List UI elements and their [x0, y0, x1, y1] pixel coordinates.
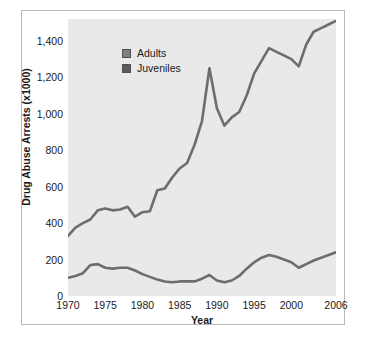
- y-tick-label: 400: [19, 217, 63, 229]
- x-tick-label: 1985: [159, 299, 201, 311]
- series-line-juveniles: [68, 252, 336, 282]
- y-tick-label: 1,000: [19, 108, 63, 120]
- x-tick-label: 2000: [270, 299, 312, 311]
- legend-label: Adults: [137, 47, 166, 59]
- y-tick-label: 800: [19, 144, 63, 156]
- series-line-adults: [68, 21, 336, 236]
- x-tick-label: 1970: [47, 299, 89, 311]
- legend-swatch-icon: [122, 49, 131, 58]
- x-tick-label: 2006: [315, 299, 357, 311]
- x-tick-label: 1990: [196, 299, 238, 311]
- x-tick-label: 1995: [233, 299, 275, 311]
- line-chart-svg: [68, 19, 336, 296]
- plot-area: [68, 19, 336, 296]
- legend-item-juveniles: Juveniles: [122, 62, 181, 74]
- y-tick-label: 600: [19, 181, 63, 193]
- x-tick-label: 1980: [121, 299, 163, 311]
- legend-item-adults: Adults: [122, 47, 181, 59]
- y-tick-label: 200: [19, 254, 63, 266]
- chart-figure: Drug Abuse Arrests (x1000) 0200400600800…: [21, 10, 345, 325]
- legend-label: Juveniles: [137, 62, 181, 74]
- y-tick-label: 1,400: [19, 35, 63, 47]
- x-axis-title: Year: [68, 314, 336, 326]
- x-tick-label: 1975: [84, 299, 126, 311]
- legend-swatch-icon: [122, 64, 131, 73]
- chart-legend: AdultsJuveniles: [122, 47, 181, 74]
- y-tick-label: 1,200: [19, 71, 63, 83]
